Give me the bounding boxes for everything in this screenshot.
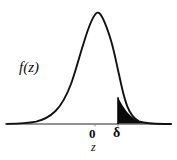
axis-variable-label: z <box>91 141 96 153</box>
origin-tick-label: 0 <box>89 127 96 140</box>
normal-curve-figure: f(z) 0 δ z <box>0 0 177 160</box>
density-function-label: f(z) <box>19 60 39 75</box>
delta-tick-label: δ <box>113 126 120 140</box>
